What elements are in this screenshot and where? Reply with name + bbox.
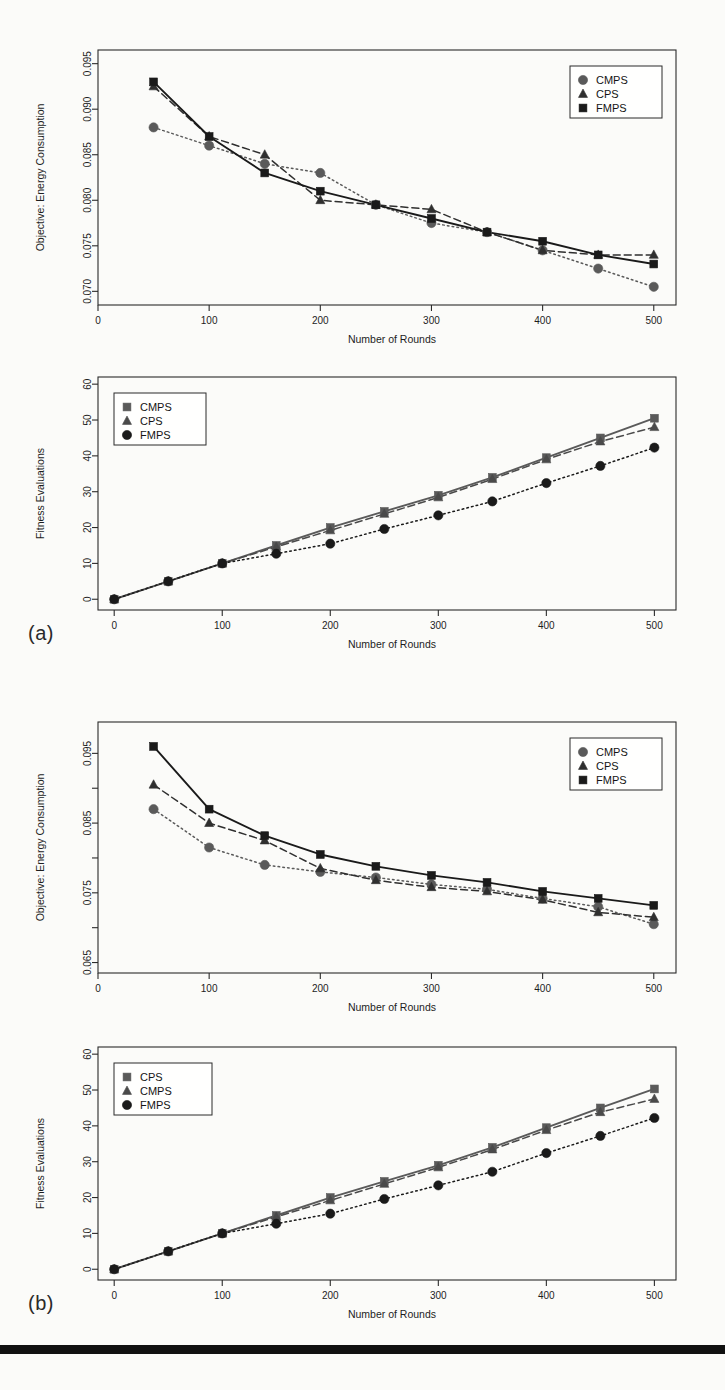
svg-text:0: 0 <box>95 983 101 994</box>
svg-text:200: 200 <box>312 983 329 994</box>
svg-text:0: 0 <box>95 315 101 326</box>
svg-text:40: 40 <box>82 1120 93 1132</box>
svg-text:Number of Rounds: Number of Rounds <box>348 1001 436 1013</box>
svg-text:200: 200 <box>322 1290 339 1301</box>
svg-text:200: 200 <box>322 620 339 631</box>
chart-b-bottom: 01002003004005000102030405060Number of R… <box>0 1025 725 1355</box>
chart-a-bottom: 01002003004005000102030405060Number of R… <box>0 355 725 685</box>
svg-text:CPS: CPS <box>596 88 619 100</box>
svg-text:Number of Rounds: Number of Rounds <box>348 1308 436 1320</box>
svg-text:CMPS: CMPS <box>140 401 172 413</box>
svg-text:CPS: CPS <box>140 415 163 427</box>
svg-text:0.090: 0.090 <box>82 96 93 121</box>
panel-b: 01002003004005000.0650.0750.0850.095Numb… <box>0 690 725 1380</box>
svg-text:0.075: 0.075 <box>82 880 93 905</box>
svg-text:0.085: 0.085 <box>82 142 93 167</box>
svg-text:FMPS: FMPS <box>140 429 171 441</box>
svg-text:20: 20 <box>82 1192 93 1204</box>
svg-text:400: 400 <box>534 315 551 326</box>
svg-text:0: 0 <box>111 620 117 631</box>
svg-text:10: 10 <box>82 1227 93 1239</box>
svg-text:20: 20 <box>82 522 93 534</box>
svg-text:500: 500 <box>645 315 662 326</box>
svg-text:0.085: 0.085 <box>82 810 93 835</box>
svg-text:100: 100 <box>201 983 218 994</box>
svg-text:0: 0 <box>82 1266 93 1272</box>
svg-text:FMPS: FMPS <box>596 102 627 114</box>
panel-a: 01002003004005000.0700.0750.0800.0850.09… <box>0 0 725 690</box>
figure-page: 01002003004005000.0700.0750.0800.0850.09… <box>0 0 725 1390</box>
svg-text:0.065: 0.065 <box>82 950 93 975</box>
svg-text:30: 30 <box>82 1156 93 1168</box>
svg-text:300: 300 <box>430 620 447 631</box>
svg-text:200: 200 <box>312 315 329 326</box>
svg-text:500: 500 <box>645 983 662 994</box>
svg-text:Number of Rounds: Number of Rounds <box>348 638 436 650</box>
svg-text:FMPS: FMPS <box>596 774 627 786</box>
svg-text:400: 400 <box>538 1290 555 1301</box>
svg-text:100: 100 <box>201 315 218 326</box>
panel-label-b: (b) <box>28 1292 54 1315</box>
svg-text:0: 0 <box>82 596 93 602</box>
svg-text:60: 60 <box>82 1048 93 1060</box>
svg-text:500: 500 <box>646 1290 663 1301</box>
chart-a-top: 01002003004005000.0700.0750.0800.0850.09… <box>0 20 725 350</box>
svg-text:FMPS: FMPS <box>140 1099 171 1111</box>
svg-text:30: 30 <box>82 486 93 498</box>
svg-text:400: 400 <box>538 620 555 631</box>
svg-text:10: 10 <box>82 557 93 569</box>
svg-text:50: 50 <box>82 414 93 426</box>
svg-text:300: 300 <box>423 983 440 994</box>
svg-text:Objective: Energy Consumption: Objective: Energy Consumption <box>34 774 46 922</box>
svg-text:50: 50 <box>82 1084 93 1096</box>
svg-text:Number of Rounds: Number of Rounds <box>348 333 436 345</box>
svg-text:0.095: 0.095 <box>82 740 93 765</box>
svg-text:0: 0 <box>111 1290 117 1301</box>
svg-text:CMPS: CMPS <box>596 74 628 86</box>
svg-text:CMPS: CMPS <box>140 1085 172 1097</box>
svg-text:0.080: 0.080 <box>82 187 93 212</box>
svg-text:CPS: CPS <box>140 1071 163 1083</box>
chart-b-top: 01002003004005000.0650.0750.0850.095Numb… <box>0 690 725 1020</box>
panel-label-a: (a) <box>28 622 54 645</box>
svg-text:300: 300 <box>430 1290 447 1301</box>
svg-text:CMPS: CMPS <box>596 746 628 758</box>
svg-text:100: 100 <box>214 1290 231 1301</box>
svg-text:0.075: 0.075 <box>82 233 93 258</box>
page-footer-bar <box>0 1345 725 1354</box>
svg-text:Fitness Evaluations: Fitness Evaluations <box>34 1118 46 1209</box>
svg-text:500: 500 <box>646 620 663 631</box>
svg-text:300: 300 <box>423 315 440 326</box>
svg-text:100: 100 <box>214 620 231 631</box>
svg-text:40: 40 <box>82 450 93 462</box>
svg-text:0.095: 0.095 <box>82 51 93 76</box>
svg-text:CPS: CPS <box>596 760 619 772</box>
svg-text:Objective: Energy Consumption: Objective: Energy Consumption <box>34 104 46 252</box>
svg-text:400: 400 <box>534 983 551 994</box>
svg-text:60: 60 <box>82 378 93 390</box>
svg-text:0.070: 0.070 <box>82 278 93 303</box>
svg-text:Fitness Evaluations: Fitness Evaluations <box>34 448 46 539</box>
